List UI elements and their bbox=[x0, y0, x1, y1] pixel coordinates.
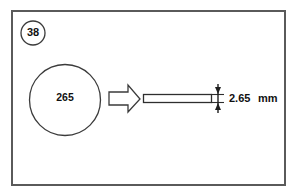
disc-top-view: 265 bbox=[30, 65, 101, 136]
dimension-unit-label: mm bbox=[258, 92, 278, 104]
disc-diameter-label: 265 bbox=[56, 91, 74, 103]
bar-outline bbox=[144, 95, 212, 103]
dimension-value-label: 2.65 bbox=[229, 92, 250, 104]
technical-figure-panel: 38 265 2.65 mm bbox=[0, 0, 296, 196]
badge-number-label: 38 bbox=[27, 26, 39, 38]
disc-side-view-bar bbox=[144, 95, 212, 103]
figure-drawing-canvas: 38 265 2.65 mm bbox=[0, 0, 296, 196]
